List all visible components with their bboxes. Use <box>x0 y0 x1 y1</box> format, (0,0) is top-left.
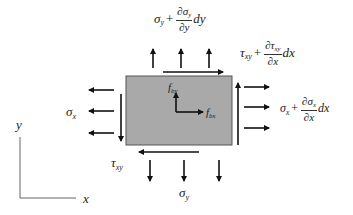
sigma-x-left-label: σx <box>66 105 76 121</box>
tau-xy-top-label: τxy+∂τxy∂xdx <box>240 40 295 67</box>
y-axis-label: y <box>16 118 22 131</box>
sigma-y-bottom-label: σy <box>179 186 189 202</box>
left-normal-stress-arrows <box>89 90 114 133</box>
sigma-x-right-label: σx+∂σx∂xdx <box>280 96 329 123</box>
x-axis-label: x <box>83 192 89 205</box>
coordinate-axes <box>20 137 76 198</box>
top-normal-stress-arrows <box>153 49 209 68</box>
sigma-y-top-label: σy+∂σy∂ydy <box>154 6 206 33</box>
f-bx-label: fbx <box>206 107 216 120</box>
stress-element <box>126 76 232 145</box>
right-normal-stress-arrows <box>244 87 269 128</box>
f-by-label: fby <box>168 82 178 95</box>
bottom-normal-stress-arrows <box>150 160 219 181</box>
tau-xy-bottom-label: τxy <box>111 156 123 172</box>
